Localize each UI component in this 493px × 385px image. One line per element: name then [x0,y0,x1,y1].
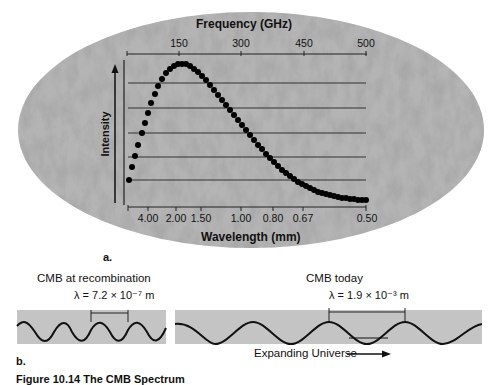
frequency-axis-title: Frequency (GHz) [196,17,292,31]
figure-caption: Figure 10.14 The CMB Spectrum [16,373,185,385]
wavelength-tick: 1.00 [231,212,251,224]
frequency-tick: 450 [295,37,313,49]
frequency-tick: 300 [232,37,250,49]
panel-b-label: b. [16,355,26,367]
wavelength-tick: 4.00 [138,212,158,224]
today-wave [175,322,482,344]
wavelength-tick: 0.50 [357,212,377,224]
wavelength-tick: 0.80 [263,212,283,224]
expanding-universe-label: Expanding Universe [254,347,357,359]
recombination-wave [17,322,166,341]
wavelength-tick: 1.50 [191,212,211,224]
wave-diagrams [0,300,493,350]
frequency-tick: 150 [170,37,188,49]
arrow-head-icon [112,64,119,73]
panel-a-label: a. [103,251,112,263]
frequency-tick: 500 [357,37,375,49]
wavelength-tick: 0.67 [293,212,313,224]
intensity-axis-title: Intensity [99,111,111,156]
recombination-title: CMB at recombination [37,272,151,284]
today-title: CMB today [306,272,363,284]
right-arrow-icon [345,349,395,359]
data-points [126,61,369,203]
wavelength-tick: 2.00 [166,212,186,224]
wavelength-axis-title: Wavelength (mm) [201,230,301,244]
